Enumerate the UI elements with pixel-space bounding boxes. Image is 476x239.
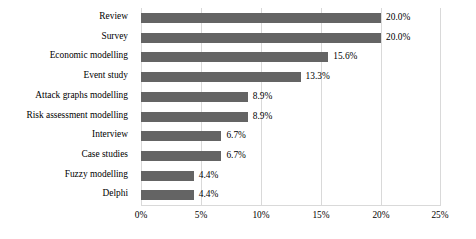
- bar-attack-graphs-modelling: [141, 92, 248, 102]
- category-label: Interview: [92, 129, 128, 139]
- x-tick-label: 25%: [431, 209, 448, 221]
- plot-area: 20.0% 20.0% 15.6% 13.3% 8.9% 8.9% 6.7%: [141, 8, 441, 205]
- category-label: Review: [99, 11, 128, 21]
- x-tick-label: 10%: [252, 209, 269, 221]
- bar-case-studies: [141, 151, 221, 161]
- category-label: Risk assessment modelling: [26, 110, 128, 120]
- bar-chart: Review Survey Economic modelling Event s…: [0, 0, 476, 239]
- gridline-20: [381, 8, 382, 205]
- bar-value-label: 13.3%: [306, 71, 330, 82]
- x-tick-label: 15%: [312, 209, 329, 221]
- bar-value-label: 4.4%: [199, 170, 219, 181]
- bar-risk-assessment-modelling: [141, 112, 248, 122]
- bar-survey: [141, 33, 381, 43]
- bar-value-label: 8.9%: [253, 111, 273, 122]
- category-label: Delphi: [102, 188, 128, 198]
- category-label: Event study: [83, 70, 128, 80]
- bar-value-label: 20.0%: [386, 12, 410, 23]
- category-label: Case studies: [81, 149, 128, 159]
- category-label: Attack graphs modelling: [35, 90, 128, 100]
- bar-delphi: [141, 190, 194, 200]
- x-tick-label: 20%: [372, 209, 389, 221]
- bar-value-label: 4.4%: [199, 189, 219, 200]
- gridline-25: [440, 8, 441, 205]
- bar-value-label: 20.0%: [386, 32, 410, 43]
- x-axis-line: [141, 205, 441, 206]
- x-axis-tick-labels: 0% 5% 10% 15% 20% 25%: [141, 209, 441, 225]
- bar-value-label: 6.7%: [226, 130, 246, 141]
- bar-event-study: [141, 72, 301, 82]
- x-tick-label: 0%: [135, 209, 148, 221]
- bar-value-label: 15.6%: [333, 51, 357, 62]
- category-label: Economic modelling: [50, 50, 128, 60]
- bar-review: [141, 13, 381, 23]
- bar-value-label: 6.7%: [226, 150, 246, 161]
- bar-fuzzy-modelling: [141, 171, 194, 181]
- category-label: Survey: [101, 31, 128, 41]
- category-label: Fuzzy modelling: [65, 169, 128, 179]
- bar-interview: [141, 131, 221, 141]
- x-tick-label: 5%: [195, 209, 208, 221]
- bar-economic-modelling: [141, 52, 328, 62]
- bar-value-label: 8.9%: [253, 91, 273, 102]
- category-axis-labels: Review Survey Economic modelling Event s…: [0, 8, 134, 205]
